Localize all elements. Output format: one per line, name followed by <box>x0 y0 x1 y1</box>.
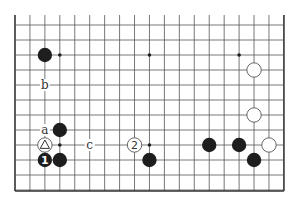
star-point <box>237 53 241 57</box>
svg-text:b: b <box>41 78 49 92</box>
stones: 21 <box>38 48 277 167</box>
star-point <box>58 53 62 57</box>
black-stone <box>53 123 67 137</box>
white-stone <box>38 138 52 152</box>
black-stone <box>247 153 261 167</box>
white-stone <box>262 138 276 152</box>
black-stone <box>53 153 67 167</box>
point-label-a: a <box>40 123 50 137</box>
move-number: 1 <box>41 154 49 167</box>
svg-text:c: c <box>86 138 93 152</box>
star-point <box>58 143 62 147</box>
white-stone <box>247 63 261 77</box>
star-point <box>148 53 152 57</box>
point-label-b: b <box>40 78 50 92</box>
move-number: 2 <box>131 139 138 152</box>
white-stone <box>247 108 261 122</box>
black-stone: 1 <box>38 153 52 167</box>
black-stone <box>142 153 156 167</box>
svg-text:a: a <box>41 123 48 137</box>
black-stone <box>38 48 52 62</box>
black-stone <box>232 138 246 152</box>
go-board-diagram: 21 bac <box>0 0 299 205</box>
black-stone <box>202 138 216 152</box>
star-point <box>148 143 152 147</box>
point-label-c: c <box>85 138 95 152</box>
white-stone: 2 <box>127 138 141 152</box>
